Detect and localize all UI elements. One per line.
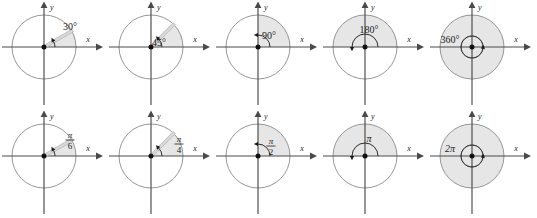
angle-label: 30° xyxy=(63,21,77,32)
y-axis-label: y xyxy=(156,112,161,121)
origin-point xyxy=(149,154,154,159)
rotation-arrowhead xyxy=(350,47,354,51)
x-axis-arrowhead xyxy=(203,44,210,51)
y-axis-arrowhead xyxy=(362,111,369,118)
rotation-arrowhead xyxy=(350,156,354,160)
origin-point xyxy=(256,154,261,159)
x-axis-arrowhead xyxy=(96,44,103,51)
fraction-denominator: 2 xyxy=(269,147,274,157)
y-axis-arrowhead xyxy=(148,111,155,118)
angle-panel-deg-180: xy180° xyxy=(321,0,428,109)
x-axis-label: x xyxy=(299,35,304,44)
angle-panel-rad-pi-4: xyπ4 xyxy=(107,109,214,218)
x-axis-arrowhead xyxy=(310,44,317,51)
y-axis-label: y xyxy=(477,3,482,12)
y-axis-arrowhead xyxy=(469,111,476,118)
angle-label: 45° xyxy=(152,37,166,48)
y-axis-label: y xyxy=(49,112,54,121)
angle-label: 90° xyxy=(262,30,276,41)
rotation-arrowhead xyxy=(254,33,258,37)
y-axis-arrowhead xyxy=(362,2,369,9)
origin-point xyxy=(470,154,475,159)
y-axis-label: y xyxy=(156,3,161,12)
y-axis-arrowhead xyxy=(41,2,48,9)
x-axis-label: x xyxy=(192,35,197,44)
y-axis-arrowhead xyxy=(255,2,262,9)
x-axis-arrowhead xyxy=(417,44,424,51)
angle-panel-deg-30: xy30° xyxy=(0,0,107,109)
angle-label: 2π xyxy=(445,143,456,154)
x-axis-arrowhead xyxy=(203,153,210,160)
fraction-numerator: π xyxy=(177,134,182,144)
angle-label: 180° xyxy=(360,24,379,35)
origin-point xyxy=(363,154,368,159)
angle-panel-rad-2pi: xy2π xyxy=(428,109,535,218)
y-axis-arrowhead xyxy=(255,111,262,118)
origin-point xyxy=(42,154,47,159)
angle-label: 360° xyxy=(441,34,460,45)
x-axis-arrowhead xyxy=(524,44,531,51)
y-axis-label: y xyxy=(370,3,375,12)
angle-panel-rad-pi-2: xyπ2 xyxy=(214,109,321,218)
fraction-numerator: π xyxy=(269,136,274,146)
y-axis-label: y xyxy=(370,112,375,121)
fraction-denominator: 4 xyxy=(177,145,182,155)
x-axis-label: x xyxy=(85,144,90,153)
fraction-denominator: 6 xyxy=(68,141,73,151)
x-axis-label: x xyxy=(85,35,90,44)
x-axis-label: x xyxy=(299,144,304,153)
x-axis-label: x xyxy=(513,35,518,44)
angle-panel-rad-pi: xyπ xyxy=(321,109,428,218)
fraction-numerator: π xyxy=(68,130,73,140)
origin-point xyxy=(42,45,47,50)
y-axis-label: y xyxy=(263,112,268,121)
y-axis-label: y xyxy=(477,112,482,121)
x-axis-label: x xyxy=(406,35,411,44)
y-axis-label: y xyxy=(263,3,268,12)
x-axis-label: x xyxy=(406,144,411,153)
x-axis-arrowhead xyxy=(524,153,531,160)
x-axis-arrowhead xyxy=(96,153,103,160)
angle-panel-deg-90: xy90° xyxy=(214,0,321,109)
x-axis-arrowhead xyxy=(310,153,317,160)
y-axis-label: y xyxy=(49,3,54,12)
x-axis-label: x xyxy=(513,144,518,153)
angle-panel-deg-45: xy45° xyxy=(107,0,214,109)
angle-panel-deg-360: xy360° xyxy=(428,0,535,109)
angle-diagram-figure: xy30°xy45°xy90°xy180°xy360°xyπ6xyπ4xyπ2x… xyxy=(0,0,537,218)
y-axis-arrowhead xyxy=(469,2,476,9)
origin-point xyxy=(363,45,368,50)
x-axis-label: x xyxy=(192,144,197,153)
origin-point xyxy=(256,45,261,50)
rotation-arrowhead xyxy=(254,142,258,146)
y-axis-arrowhead xyxy=(41,111,48,118)
angle-panel-rad-pi-6: xyπ6 xyxy=(0,109,107,218)
x-axis-arrowhead xyxy=(417,153,424,160)
y-axis-arrowhead xyxy=(148,2,155,9)
origin-point xyxy=(470,45,475,50)
